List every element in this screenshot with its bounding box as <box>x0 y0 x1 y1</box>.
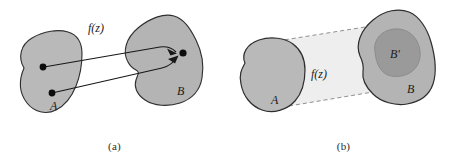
panel-a: f(z) A B (a) <box>0 0 229 158</box>
source-point-lower <box>49 90 56 97</box>
panel-b: f(z) A B B' (b) <box>229 0 458 158</box>
set-a-label-b: A <box>270 93 279 107</box>
set-a-label: A <box>49 99 58 113</box>
figure-container: f(z) A B (a) f(z) A B B' (b) <box>0 0 458 158</box>
source-point-upper <box>40 64 47 71</box>
set-b-label-b: B <box>407 82 415 96</box>
image-set-label: B' <box>390 47 400 61</box>
target-point <box>179 49 186 56</box>
set-b-label: B <box>177 84 185 98</box>
caption-a: (a) <box>0 140 229 152</box>
caption-b: (b) <box>229 140 458 152</box>
set-b-shape <box>125 15 203 105</box>
panel-a-diagram: f(z) A B <box>0 0 229 158</box>
panel-b-diagram: f(z) A B B' <box>229 0 458 158</box>
function-label-b: f(z) <box>311 67 327 81</box>
function-label-a: f(z) <box>88 21 104 35</box>
